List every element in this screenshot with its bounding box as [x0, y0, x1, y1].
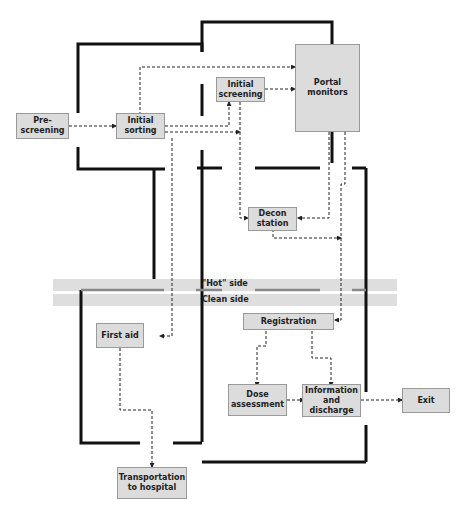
node-decon-station: Decon station: [248, 207, 297, 231]
node-dose-assessment: Dose assessment: [228, 384, 287, 416]
clean-side-label: Clean side: [202, 295, 249, 304]
node-exit: Exit: [402, 388, 450, 413]
node-transportation: Transportation to hospital: [117, 467, 187, 499]
node-first-aid: First aid: [96, 323, 144, 348]
node-initial-screening: Initial screening: [216, 77, 265, 102]
hot-side-label: "Hot" side: [202, 279, 248, 288]
node-initial-sorting: Initial sorting: [116, 113, 165, 139]
node-portal-monitors: Portal monitors: [295, 44, 360, 132]
node-information-discharge: Information and discharge: [302, 384, 361, 417]
node-registration: Registration: [243, 313, 334, 330]
node-prescreening: Pre- screening: [16, 113, 69, 139]
